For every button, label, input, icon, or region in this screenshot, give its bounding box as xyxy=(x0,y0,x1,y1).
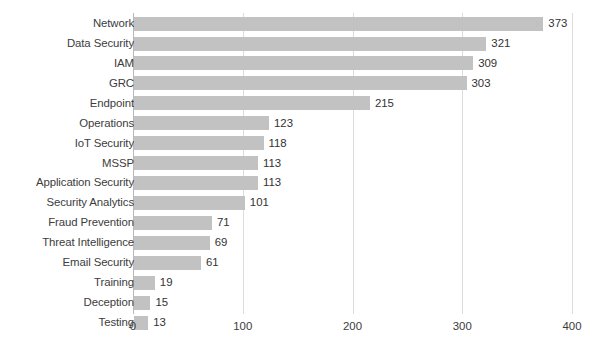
bar-value-label: 13 xyxy=(153,313,166,333)
bar xyxy=(134,236,210,250)
bar-row: IAM309 xyxy=(0,54,597,74)
bar xyxy=(134,296,150,310)
bar-row: Deception15 xyxy=(0,293,597,313)
category-label: IAM xyxy=(6,54,134,74)
category-label: Data Security xyxy=(6,34,134,54)
category-label: Email Security xyxy=(6,253,134,273)
bar-value-label: 303 xyxy=(472,74,491,94)
bar-row: Email Security61 xyxy=(0,253,597,273)
category-label: Operations xyxy=(6,114,134,134)
x-tick-label-200: 200 xyxy=(333,320,373,332)
bar-chart: Network373Data Security321IAM309GRC303En… xyxy=(0,0,597,350)
bar-row: Threat Intelligence69 xyxy=(0,233,597,253)
bar-value-label: 61 xyxy=(206,253,219,273)
category-label: Application Security xyxy=(6,173,134,193)
bar xyxy=(134,196,245,210)
bar-value-label: 113 xyxy=(263,173,281,193)
bar-value-label: 123 xyxy=(274,114,293,134)
plot-area: Network373Data Security321IAM309GRC303En… xyxy=(0,0,597,350)
bar xyxy=(134,96,370,110)
bar-row: Application Security113 xyxy=(0,173,597,193)
category-label: Fraud Prevention xyxy=(6,213,134,233)
bar xyxy=(134,176,258,190)
category-label: Security Analytics xyxy=(6,193,134,213)
bar-row: Network373 xyxy=(0,14,597,34)
bar xyxy=(134,76,467,90)
category-label: IoT Security xyxy=(6,134,134,154)
bar xyxy=(134,156,258,170)
category-label: Network xyxy=(6,14,134,34)
bar xyxy=(134,116,269,130)
category-label: Threat Intelligence xyxy=(6,233,134,253)
bar-value-label: 309 xyxy=(478,54,497,74)
bar-row: MSSP113 xyxy=(0,154,597,174)
bar-row: Endpoint215 xyxy=(0,94,597,114)
bar xyxy=(134,17,543,31)
bar-value-label: 69 xyxy=(215,233,228,253)
bar-row: Training19 xyxy=(0,273,597,293)
bar-row: GRC303 xyxy=(0,74,597,94)
category-label: GRC xyxy=(6,74,134,94)
bar-value-label: 15 xyxy=(155,293,168,313)
bar-value-label: 113 xyxy=(263,154,281,174)
bar xyxy=(134,256,201,270)
bar-value-label: 71 xyxy=(217,213,230,233)
category-label: Training xyxy=(6,273,134,293)
bar-value-label: 373 xyxy=(548,14,567,34)
bar xyxy=(134,276,155,290)
bar-row: Fraud Prevention71 xyxy=(0,213,597,233)
bar xyxy=(134,37,486,51)
bar-row: Operations123 xyxy=(0,114,597,134)
category-label: Endpoint xyxy=(6,94,134,114)
x-tick-label-0: 0 xyxy=(113,320,153,332)
bar-row: Testing13 xyxy=(0,313,597,333)
bar-value-label: 19 xyxy=(160,273,173,293)
bar-row: Data Security321 xyxy=(0,34,597,54)
bar xyxy=(134,56,473,70)
category-label: MSSP xyxy=(6,154,134,174)
bar-value-label: 101 xyxy=(250,193,269,213)
bar xyxy=(134,136,264,150)
bar-value-label: 321 xyxy=(491,34,510,54)
bar-row: Security Analytics101 xyxy=(0,193,597,213)
category-label: Deception xyxy=(6,293,134,313)
x-tick-label-300: 300 xyxy=(442,320,482,332)
x-tick-label-100: 100 xyxy=(223,320,263,332)
bar-value-label: 118 xyxy=(269,134,287,154)
bar xyxy=(134,216,212,230)
x-tick-label-400: 400 xyxy=(552,320,592,332)
bar-row: IoT Security118 xyxy=(0,134,597,154)
bar-value-label: 215 xyxy=(375,94,394,114)
